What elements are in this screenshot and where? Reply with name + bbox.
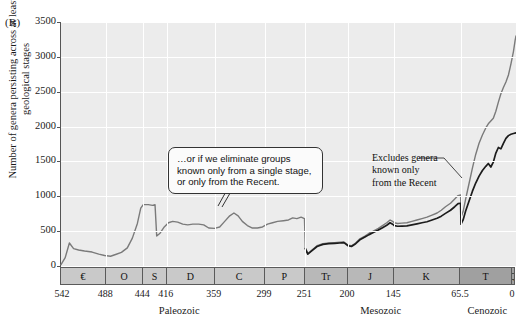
period-label: Tr [321,271,330,282]
y-tick-3000: 3000 [35,50,56,61]
period-label: T [482,271,488,282]
period-label: K [422,271,429,282]
y-tickmark [57,22,61,23]
timescale-period-T: T [460,268,513,284]
x-tick-542: 542 [55,288,70,299]
excludes-line-3: from the Recent [372,177,438,189]
callout-box: …or if we eliminate groups known only fr… [168,147,323,194]
y-tick-1500: 1500 [35,154,56,165]
figure-panel-b: (B) Number of genera persisting across a… [0,0,524,325]
period-label: C [236,271,243,282]
gridline-vertical [215,22,216,266]
y-axis-tick-labels: 0500100015002000250030003500 [0,0,56,325]
gridline-horizontal [61,127,516,128]
x-tick-488: 488 [98,288,113,299]
x-tick-359: 359 [206,288,221,299]
gridline-horizontal [61,196,516,197]
gridline-vertical [305,22,306,266]
era-label-cenozoic: Cenozoic [467,305,507,316]
y-tickmark [57,127,61,128]
excludes-recent-annotation: Excludes genera known only from the Rece… [372,152,438,189]
gridline-horizontal [61,92,516,93]
y-tick-2000: 2000 [35,120,56,131]
data-curves [61,22,516,266]
gridline-horizontal [61,57,516,58]
period-label: Q [512,271,514,282]
timescale-period-K: K [394,268,460,284]
gridline-vertical [265,22,266,266]
gridline-vertical [461,22,462,266]
gridline-vertical [516,22,517,266]
timescale-period-S: S [143,268,167,284]
y-tick-500: 500 [40,224,56,235]
period-label: J [368,271,372,282]
x-tick-200: 200 [340,288,355,299]
x-tick-145: 145 [386,288,401,299]
excludes-line-1: Excludes genera [372,152,438,164]
x-tick-0: 0 [510,288,515,299]
y-tick-0: 0 [51,259,56,270]
gridline-vertical [143,22,144,266]
period-label: € [81,271,86,282]
y-tickmark [57,92,61,93]
timescale-period-Q: Q [512,268,514,284]
timescale-period-D: D [167,268,215,284]
timescale-period-P: P [265,268,305,284]
y-tickmark [57,231,61,232]
gridline-vertical [348,22,349,266]
timescale-period-C: C [215,268,265,284]
y-tick-3500: 3500 [35,15,56,26]
period-label: P [281,271,287,282]
gridline-vertical [394,22,395,266]
x-tick-251: 251 [297,288,312,299]
era-label-paleozoic: Paleozoic [159,305,200,316]
geologic-timescale-bar: €OSDCPTrJKTQ [60,267,515,285]
x-tick-444: 444 [135,288,150,299]
y-tick-1000: 1000 [35,189,56,200]
timescale-period-€: € [61,268,106,284]
gridline-horizontal [61,231,516,232]
x-tick-416: 416 [158,288,173,299]
gridline-horizontal [61,22,516,23]
period-label: S [152,271,158,282]
x-tick-65.5: 65.5 [451,288,469,299]
y-tickmark [57,57,61,58]
x-tick-299: 299 [256,288,271,299]
y-tick-2500: 2500 [35,85,56,96]
period-label: D [187,271,194,282]
period-label: O [121,271,128,282]
y-tickmark [57,161,61,162]
excludes-line-2: known only [372,164,438,176]
timescale-period-O: O [106,268,143,284]
timescale-period-Tr: Tr [305,268,348,284]
era-label-mesozoic: Mesozoic [360,305,401,316]
plot-area [60,22,516,266]
timescale-period-J: J [348,268,394,284]
gridline-vertical [167,22,168,266]
gridline-vertical [106,22,107,266]
y-tickmark [57,196,61,197]
